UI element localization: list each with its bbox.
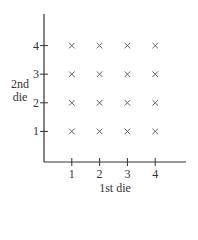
x-marker bbox=[69, 100, 75, 106]
x-marker bbox=[125, 43, 131, 49]
y-axis-label: 2nd die bbox=[5, 78, 35, 104]
x-marker bbox=[152, 71, 158, 77]
x-marker bbox=[69, 71, 75, 77]
x-tick-label: 2 bbox=[94, 168, 106, 180]
x-marker bbox=[152, 100, 158, 106]
x-marker bbox=[125, 71, 131, 77]
x-tick-label: 1 bbox=[66, 168, 78, 180]
y-tick-label: 4 bbox=[27, 40, 39, 52]
x-marker bbox=[69, 43, 75, 49]
data-markers bbox=[69, 43, 158, 134]
x-marker bbox=[69, 129, 75, 135]
x-marker bbox=[97, 43, 103, 49]
x-marker bbox=[152, 43, 158, 49]
x-marker bbox=[97, 129, 103, 135]
x-marker bbox=[125, 129, 131, 135]
y-axis-label-line2: die bbox=[5, 91, 35, 104]
x-marker bbox=[97, 100, 103, 106]
x-marker bbox=[152, 129, 158, 135]
axis-ticks bbox=[40, 46, 155, 166]
x-axis-label: 1st die bbox=[85, 182, 145, 194]
y-tick-label: 1 bbox=[27, 125, 39, 137]
x-marker bbox=[97, 71, 103, 77]
x-tick-label: 3 bbox=[121, 168, 133, 180]
x-marker bbox=[125, 100, 131, 106]
x-tick-label: 4 bbox=[149, 168, 161, 180]
